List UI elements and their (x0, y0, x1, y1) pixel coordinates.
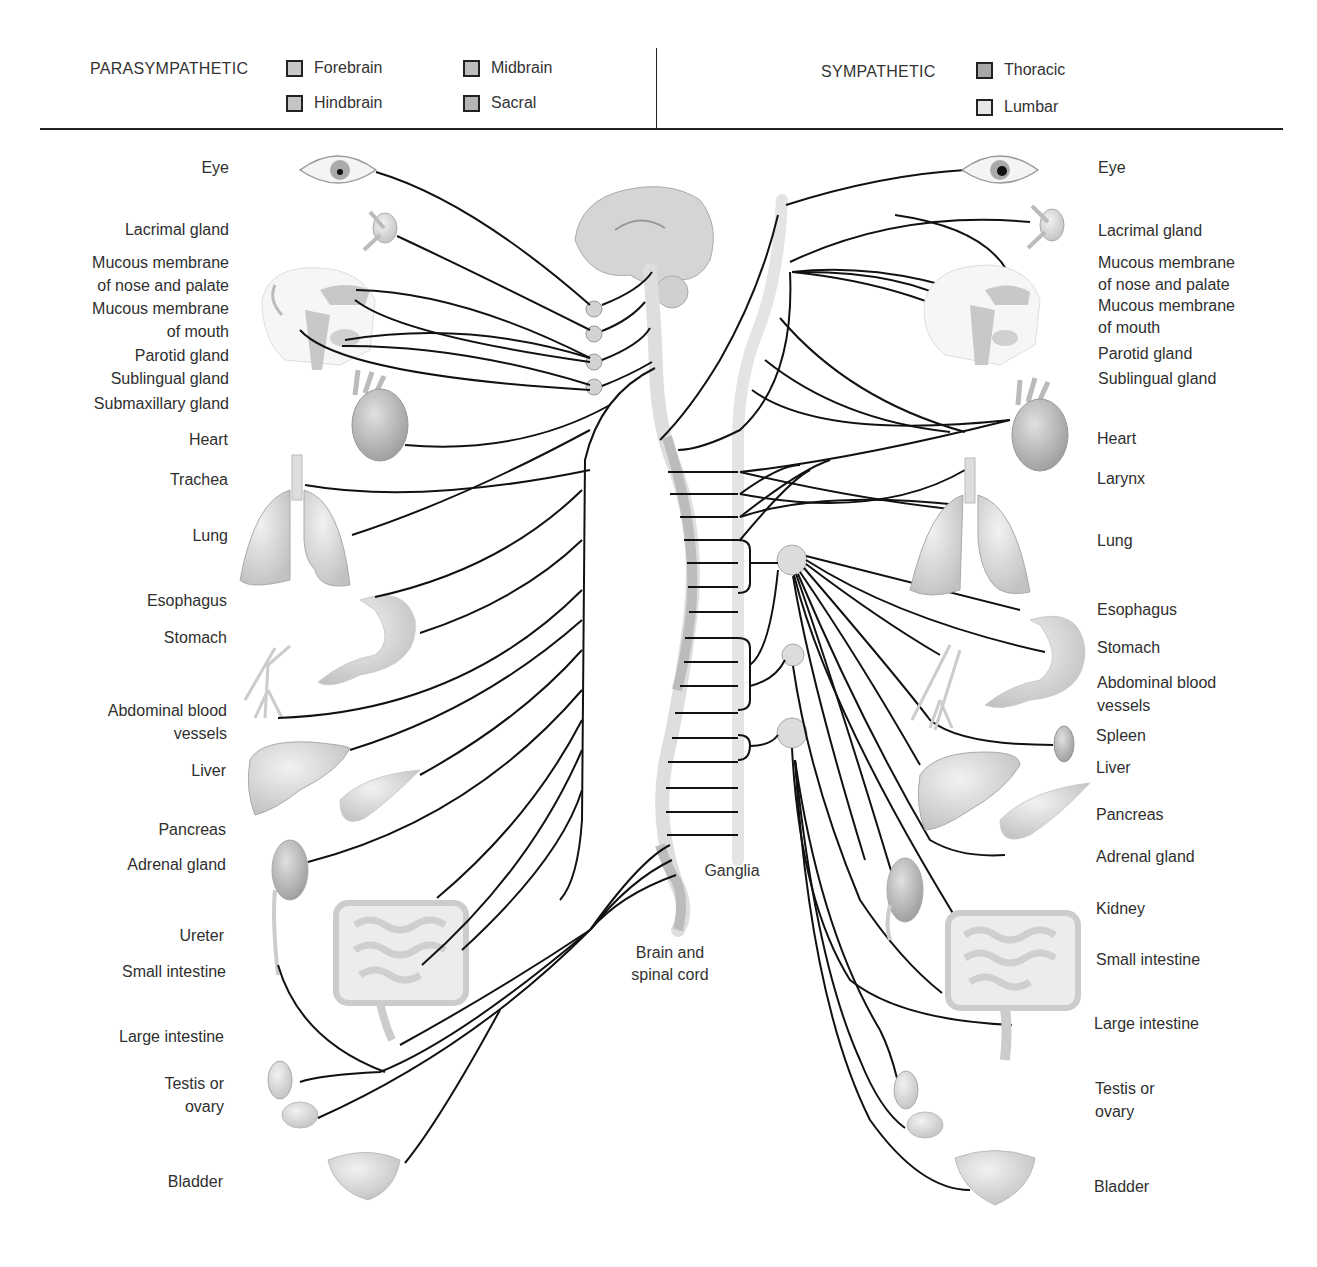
right-lung-icon (910, 458, 1030, 595)
right-label-stomach: Stomach (1097, 636, 1160, 659)
right-label-esophagus: Esophagus (1097, 598, 1177, 621)
right-label-bladder: Bladder (1094, 1175, 1149, 1198)
caption-brain-spinal-cord: Brain and spinal cord (618, 942, 722, 986)
left-label-esophagus: Esophagus (147, 589, 227, 612)
right-label-adrenal-gland: Adrenal gland (1096, 845, 1195, 868)
left-label-submaxillary-gland: Submaxillary gland (94, 392, 229, 415)
right-kidney-adrenal-icon (887, 858, 923, 940)
right-eye-icon (962, 156, 1038, 183)
right-label-sublingual-gland: Sublingual gland (1098, 367, 1216, 390)
right-testis-ovary-icon (894, 1071, 943, 1138)
right-head-section-icon (924, 265, 1040, 365)
right-heart-icon (1012, 378, 1068, 471)
left-liver-icon (248, 742, 350, 815)
left-stomach-icon (318, 596, 415, 685)
left-label-eye: Eye (201, 156, 229, 179)
right-label-spleen: Spleen (1096, 724, 1146, 747)
cranial-ganglia (586, 301, 602, 395)
left-label-mucous-mouth: Mucous membrane of mouth (92, 297, 229, 343)
left-kidney-adrenal-icon (272, 840, 308, 975)
left-label-large-intestine: Large intestine (119, 1025, 224, 1048)
right-lacrimal-gland-icon (1028, 206, 1064, 248)
right-intestines-icon (948, 913, 1078, 1060)
left-label-parotid-gland: Parotid gland (135, 344, 229, 367)
right-bladder-icon (955, 1151, 1035, 1206)
right-label-lacrimal-gland: Lacrimal gland (1098, 219, 1202, 242)
left-label-heart: Heart (189, 428, 228, 451)
left-label-bladder: Bladder (168, 1170, 223, 1193)
right-label-large-intestine: Large intestine (1094, 1012, 1199, 1035)
left-label-adrenal-gland: Adrenal gland (127, 853, 226, 876)
right-stomach-icon (985, 616, 1085, 707)
left-label-lacrimal-gland: Lacrimal gland (125, 218, 229, 241)
left-label-small-intestine: Small intestine (122, 960, 226, 983)
left-head-section-icon (262, 268, 375, 370)
right-label-larynx: Larynx (1097, 467, 1145, 490)
right-label-kidney: Kidney (1096, 897, 1145, 920)
right-label-parotid-gland: Parotid gland (1098, 342, 1192, 365)
left-testis-ovary-icon (268, 1061, 318, 1128)
right-blood-vessels-icon (912, 645, 960, 730)
right-pancreas-icon (1000, 783, 1090, 839)
sympathetic-chain (738, 200, 782, 860)
left-label-pancreas: Pancreas (158, 818, 226, 841)
caption-ganglia: Ganglia (690, 860, 774, 882)
left-label-lung: Lung (192, 524, 228, 547)
left-heart-icon (352, 370, 408, 461)
left-label-abdominal-blood-vessels: Abdominal blood vessels (108, 699, 227, 745)
right-label-testis-ovary: Testis or ovary (1095, 1077, 1155, 1123)
right-label-liver: Liver (1096, 756, 1131, 779)
spinal-cord (650, 270, 693, 930)
left-label-trachea: Trachea (170, 468, 228, 491)
left-lung-icon (240, 455, 350, 586)
right-label-lung: Lung (1097, 529, 1133, 552)
left-label-ureter: Ureter (180, 924, 224, 947)
left-blood-vessels-icon (245, 646, 290, 718)
left-label-stomach: Stomach (164, 626, 227, 649)
right-label-eye: Eye (1098, 156, 1126, 179)
left-label-testis-ovary: Testis or ovary (164, 1072, 224, 1118)
left-lacrimal-gland-icon (364, 212, 397, 250)
left-eye-icon (300, 156, 376, 183)
brain-icon (575, 187, 713, 308)
right-label-abdominal-blood-vessels: Abdominal blood vessels (1097, 671, 1216, 717)
left-pancreas-icon (340, 770, 420, 821)
right-label-small-intestine: Small intestine (1096, 948, 1200, 971)
right-label-pancreas: Pancreas (1096, 803, 1164, 826)
left-label-sublingual-gland: Sublingual gland (111, 367, 229, 390)
right-label-mucous-membranes: Mucous membrane of nose and palate Mucou… (1098, 252, 1235, 338)
left-label-liver: Liver (191, 759, 226, 782)
right-label-heart: Heart (1097, 427, 1136, 450)
left-bladder-icon (328, 1153, 400, 1201)
right-spleen-icon (1054, 726, 1074, 762)
left-label-mucous-nose: Mucous membrane of nose and palate (92, 251, 229, 297)
